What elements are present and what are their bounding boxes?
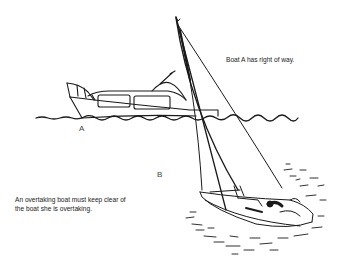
water-spray-icon xyxy=(186,164,326,254)
motor-boat-a-icon xyxy=(67,71,218,118)
sailboat-b-icon xyxy=(176,17,313,227)
overtaking-caption-line-1: An overtaking boat must keep clear of xyxy=(15,196,126,205)
boat-a-label: A xyxy=(79,124,84,133)
boat-b-label: B xyxy=(157,170,162,179)
right-of-way-caption: Boat A has right of way. xyxy=(226,56,294,65)
overtaking-caption-line-2: the boat she is overtaking. xyxy=(15,205,92,214)
boats-illustration xyxy=(0,0,344,263)
diagram-canvas: A B Boat A has right of way. An overtaki… xyxy=(0,0,344,263)
